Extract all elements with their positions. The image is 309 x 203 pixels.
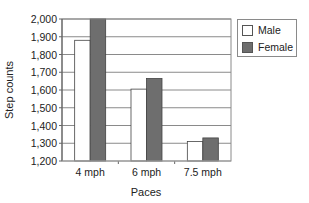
y-tick-labels: 1,2001,3001,4001,5001,6001,7001,8001,900… [31,13,57,167]
legend-swatch-male [242,25,253,36]
x-tick-label: 7.5 mph [184,166,222,178]
bar-male [187,141,203,161]
y-tick-label: 1,700 [31,66,57,78]
legend-item-female: Female [242,40,293,54]
y-tick-label: 1,300 [31,137,57,149]
legend-swatch-female [242,42,253,53]
x-tick-label: 6 mph [132,166,161,178]
y-tick-label: 1,900 [31,31,57,43]
legend-item-male: Male [242,23,281,37]
y-tick-label: 1,500 [31,102,57,114]
bar-female [90,19,106,161]
y-axis-label: Step counts [3,60,15,119]
bar-male [131,89,147,161]
legend-label-male: Male [258,24,281,36]
bar-female [203,138,219,161]
y-tick-label: 1,800 [31,49,57,61]
y-tick-label: 1,600 [31,84,57,96]
y-tick-label: 1,200 [31,155,57,167]
legend: Male Female [237,19,297,57]
y-tick-label: 1,400 [31,120,57,132]
bar-female [147,78,163,161]
y-tick-label: 2,000 [31,13,57,25]
x-axis-label: Paces [131,186,162,198]
x-tick-label: 4 mph [76,166,105,178]
bar-male [75,40,91,161]
x-tick-labels: 4 mph6 mph7.5 mph [76,166,222,178]
legend-label-female: Female [258,41,293,53]
